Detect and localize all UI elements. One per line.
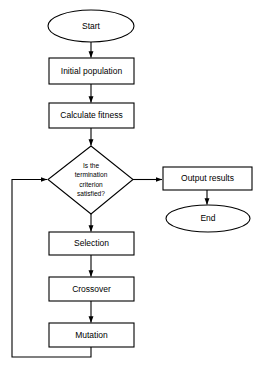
- flowchart-svg: Start Initial population Calculate fitne…: [0, 0, 261, 377]
- start-label: Start: [82, 21, 101, 31]
- calculate-fitness-label: Calculate fitness: [60, 110, 122, 120]
- decision-label-line-1: Is the: [83, 162, 99, 169]
- node-start[interactable]: Start: [48, 10, 134, 42]
- node-initial-population[interactable]: Initial population: [49, 58, 134, 84]
- output-results-label: Output results: [181, 173, 234, 183]
- initial-population-label: Initial population: [61, 66, 123, 76]
- crossover-label: Crossover: [72, 284, 111, 294]
- node-selection[interactable]: Selection: [49, 232, 134, 255]
- mutation-label: Mutation: [75, 330, 108, 340]
- node-crossover[interactable]: Crossover: [49, 277, 134, 301]
- node-decision[interactable]: Is the termination criterion satisfied?: [48, 146, 133, 214]
- node-calculate-fitness[interactable]: Calculate fitness: [49, 103, 134, 128]
- node-end[interactable]: End: [166, 205, 250, 232]
- node-output-results[interactable]: Output results: [163, 167, 252, 190]
- end-label: End: [200, 213, 215, 223]
- decision-label-line-3: criterion: [79, 181, 103, 188]
- selection-label: Selection: [74, 238, 109, 248]
- flowchart-canvas: Start Initial population Calculate fitne…: [0, 0, 261, 377]
- decision-label-line-4: satisfied?: [77, 190, 105, 197]
- node-mutation[interactable]: Mutation: [49, 323, 134, 347]
- decision-label-line-2: termination: [75, 171, 108, 178]
